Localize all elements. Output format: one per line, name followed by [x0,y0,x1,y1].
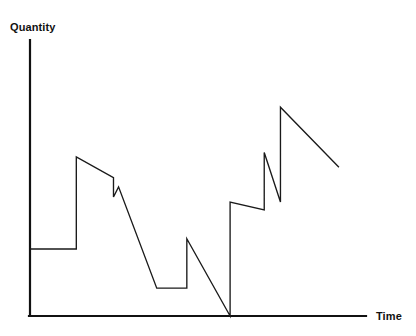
chart-canvas: Quantity Time [0,0,416,336]
quantity-series-line [30,107,339,316]
chart-plot-area [0,0,416,336]
